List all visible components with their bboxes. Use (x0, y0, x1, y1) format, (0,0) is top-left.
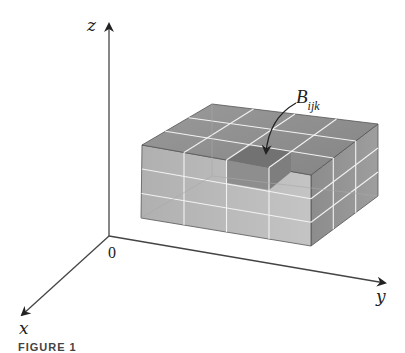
subbox-label-subscript: ijk (308, 99, 320, 113)
y-axis (109, 236, 385, 283)
y-axis-label: y (376, 286, 386, 306)
subbox-label: Bijk (296, 86, 320, 112)
z-axis-label: z (87, 15, 96, 35)
origin-label: 0 (108, 244, 116, 262)
subbox-label-main: B (296, 86, 308, 107)
x-axis-label: x (19, 318, 29, 338)
x-axis (22, 236, 109, 315)
figure-caption: FIGURE 1 (18, 341, 77, 353)
rectangular-box (141, 104, 378, 246)
